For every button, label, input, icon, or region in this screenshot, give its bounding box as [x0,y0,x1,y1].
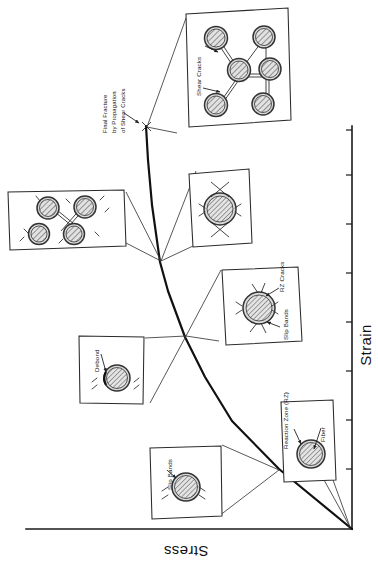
inset-slip-bands-label-1: Slip Bands [166,459,173,490]
inset-shear-cracks-label: Shear Cracks [195,57,202,96]
inset-reaction-zone-label: Reaction Zone (RZ) [282,392,289,449]
inset-shear-link [8,190,126,250]
inset-shear-initiation [189,169,252,247]
final-fracture-line-1: Final Fracture [102,94,108,133]
inset-rz-slip-bands-label: Slip Bands [282,309,289,340]
inset-rz-cracks: RZ Cracks Slip Bands [222,261,302,345]
inset-debond-label: Debond [93,349,100,372]
inset-fiber-rz: Reaction Zone (RZ) Fiber [281,392,336,482]
strain-axis-label: Strain [357,324,374,366]
inset-shear-cracks: Shear Cracks [186,8,291,127]
final-fracture-line-3: of Shear Cracks [120,89,126,133]
inset-slip-bands: Slip Bands [150,446,222,519]
inset-rz-cracks-label: RZ Cracks [278,261,285,292]
inset-debond: Debond [79,336,144,404]
final-fracture-line-2: by Propagation [111,91,117,133]
inset-fiber-label: Fiber [319,427,326,442]
stress-strain-figure: Strain Stress Final Fracture by Propagat… [0,0,378,563]
stress-axis-label: Stress [164,543,209,560]
